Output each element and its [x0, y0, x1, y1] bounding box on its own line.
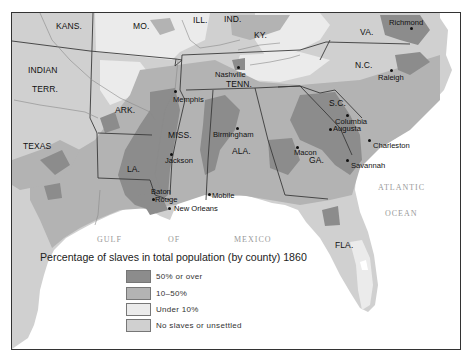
city-richmond: Richmond	[389, 18, 423, 27]
legend-label: 10–50%	[156, 289, 187, 298]
state-label-la: LA.	[127, 164, 140, 174]
city-augusta: Augusta	[333, 124, 361, 133]
state-label-ark: ARK.	[115, 105, 135, 115]
state-label-fla: FLA.	[335, 240, 353, 250]
city-jackson: Jackson	[165, 156, 193, 165]
city-macon: Macon	[294, 148, 317, 157]
state-label-tenn: TENN.	[226, 79, 252, 89]
legend-title: Percentage of slaves in total population…	[40, 251, 307, 263]
legend-swatch-icon	[126, 319, 151, 332]
legend-label: 50% or over	[156, 272, 202, 281]
slavery-1860-map: KANS. MO. ILL. IND. KY. VA. INDIAN TERR.…	[0, 0, 471, 360]
water-ocean: OCEAN	[385, 209, 418, 218]
state-label-ky: KY.	[254, 30, 267, 40]
city-memphis: Memphis	[173, 95, 204, 104]
city-new-orleans: New Orleans	[174, 204, 218, 213]
state-label-miss: MISS.	[168, 130, 192, 140]
map-canvas	[0, 0, 471, 360]
city-nashville: Nashville	[215, 70, 246, 79]
state-label-ala: ALA.	[232, 146, 251, 156]
state-label-kans: KANS.	[56, 21, 82, 31]
city-savannah: Savannah	[351, 161, 385, 170]
state-label-va: VA.	[360, 27, 373, 37]
water-mexico: MEXICO	[234, 235, 272, 244]
state-label-mo: MO.	[133, 21, 149, 31]
legend-label: No slaves or unsettled	[156, 321, 242, 330]
legend-label: Under 10%	[156, 305, 199, 314]
state-label-nc: N.C.	[355, 60, 372, 70]
city-charleston: Charleston	[373, 141, 410, 150]
city-label: Richmond	[389, 18, 423, 27]
state-label-ill: ILL.	[193, 15, 208, 25]
state-label-sc: S.C.	[329, 98, 346, 108]
city-mobile: Mobile	[212, 191, 234, 200]
legend-item-50-plus: 50% or over	[126, 270, 202, 283]
legend-swatch-icon	[126, 287, 151, 300]
state-label-indian: INDIAN	[28, 65, 57, 75]
city-birmingham: Birmingham	[213, 130, 254, 139]
legend-swatch-icon	[126, 270, 151, 283]
city-baton-rouge-line2: Rouge	[155, 195, 177, 204]
legend-item-no-slaves: No slaves or unsettled	[126, 319, 242, 332]
water-atlantic: ATLANTIC	[378, 183, 425, 192]
legend-swatch-icon	[126, 303, 151, 316]
city-raleigh: Raleigh	[378, 73, 404, 82]
legend-item-under-10: Under 10%	[126, 303, 199, 316]
water-of: OF	[168, 235, 180, 244]
state-label-terr: TERR.	[32, 84, 58, 94]
state-label-ind: IND.	[224, 14, 241, 24]
water-gulf: GULF	[97, 235, 122, 244]
state-label-texas: TEXAS	[23, 141, 51, 151]
legend-item-10-50: 10–50%	[126, 287, 187, 300]
